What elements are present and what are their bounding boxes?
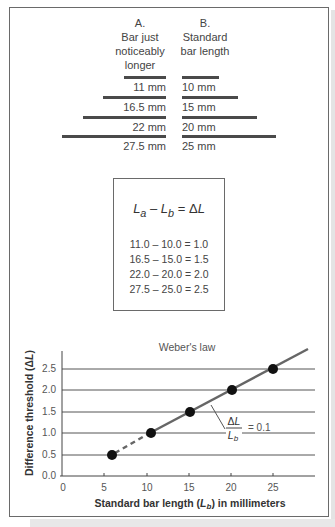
- y-tick-label: 0.0: [42, 470, 56, 481]
- weber-law-chart: Weber's law 0.0 0.5 1.0 1.5 2.0 2.5 0 5 …: [0, 0, 335, 527]
- data-point: [146, 428, 156, 438]
- data-point: [185, 407, 195, 417]
- data-point: [268, 364, 278, 374]
- x-axis-title: Standard bar length (Lb) in millimeters: [94, 497, 285, 511]
- data-point: [107, 450, 117, 460]
- x-tick-label: 5: [101, 482, 107, 493]
- chart-title: Weber's law: [159, 341, 216, 353]
- y-tick-label: 1.0: [42, 427, 56, 438]
- fit-line-dashed: [115, 434, 148, 453]
- y-tick-label: 1.5: [42, 406, 56, 417]
- y-tick-label: 2.0: [42, 384, 56, 395]
- y-tick-labels: 0.0 0.5 1.0 1.5 2.0 2.5: [42, 363, 56, 481]
- annotation-value: = 0.1: [248, 422, 271, 433]
- data-point: [227, 385, 237, 395]
- y-axis-title: Difference threshold (ΔL): [23, 350, 35, 476]
- annotation-leader-line: [211, 405, 225, 429]
- x-tick-label: 15: [183, 482, 195, 493]
- x-tick-label: 25: [267, 482, 279, 493]
- y-tick-label: 0.5: [42, 449, 56, 460]
- annotation-denominator: Lb: [228, 429, 239, 443]
- y-tick-label: 2.5: [42, 363, 56, 374]
- x-tick-label: 0: [60, 482, 66, 493]
- x-tick-label: 20: [225, 482, 237, 493]
- annotation-numerator: ΔL: [228, 415, 241, 427]
- x-tick-labels: 0 5 10 15 20 25: [60, 482, 279, 493]
- x-tick-label: 10: [141, 482, 153, 493]
